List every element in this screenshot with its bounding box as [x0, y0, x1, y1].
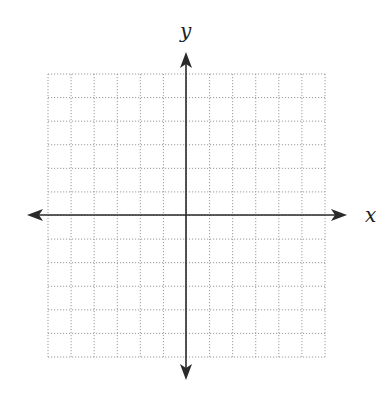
- coordinate-grid: x y: [0, 0, 391, 393]
- coordinate-plane: x y: [0, 0, 391, 393]
- x-axis-label: x: [365, 203, 376, 227]
- y-axis-label: y: [179, 19, 192, 43]
